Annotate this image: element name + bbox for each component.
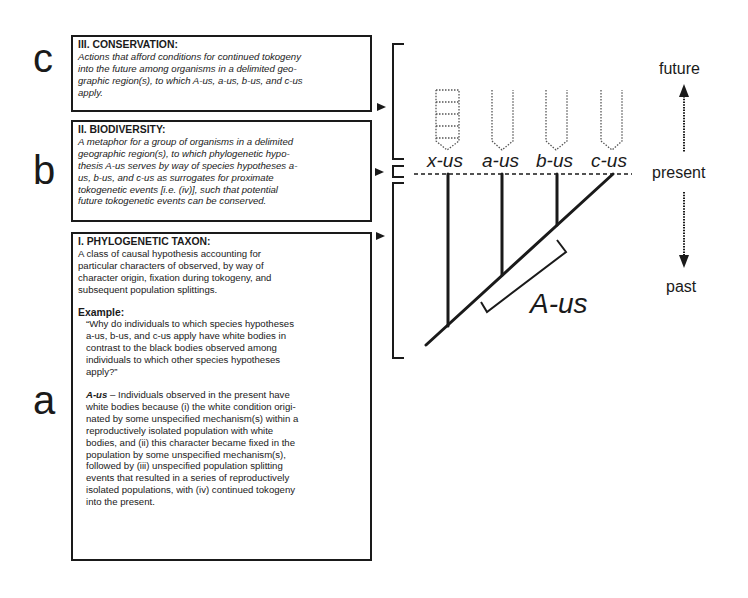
tip-label-c-us: c-us [591,150,627,172]
clade-label-a-us: A-us [530,288,588,320]
b-us-glyph-icon [546,90,567,150]
time-label-future: future [659,60,700,78]
past-arrow-icon [679,192,689,268]
time-label-past: past [666,278,696,296]
present-bracket [393,166,404,177]
tip-label-a-us: a-us [482,150,519,172]
a-us-glyph-icon [492,90,513,150]
x-us-glyph-icon [436,90,459,150]
tip-label-b-us: b-us [536,150,573,172]
c-us-glyph-icon [601,90,622,150]
time-label-present: present [652,164,705,182]
past-bracket [393,183,404,358]
phylogeny-diagram [0,0,748,598]
future-arrow-icon [679,84,689,152]
tip-label-x-us: x-us [427,150,463,172]
future-bracket [393,44,404,159]
